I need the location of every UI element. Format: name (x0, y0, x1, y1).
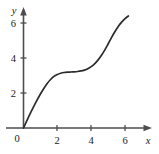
cubic-curve-chart: 2 4 6 2 4 6 0 y x (0, 0, 159, 154)
y-tick-label-6: 6 (11, 18, 16, 29)
y-axis-label: y (11, 5, 17, 16)
y-tick-label-2: 2 (11, 88, 16, 99)
x-tick-label-2: 2 (54, 135, 59, 146)
plotted-curve (24, 16, 129, 128)
x-tick-label-6: 6 (122, 135, 127, 146)
x-tick-label-4: 4 (88, 135, 94, 146)
y-axis-arrowhead (20, 7, 27, 16)
origin-label: 0 (14, 133, 19, 144)
figure-panel: 2 4 6 2 4 6 0 y x (0, 0, 159, 154)
x-axis-label: x (145, 135, 151, 146)
x-axis-arrowhead (144, 125, 153, 132)
y-tick-label-4: 4 (11, 53, 17, 64)
